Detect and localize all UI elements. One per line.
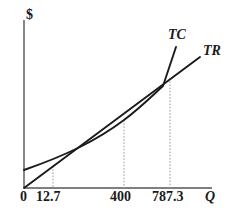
x-tick-label-400: 400: [110, 190, 131, 204]
y-axis-title: $: [26, 8, 33, 22]
x-tick-label-787-3: 787.3: [152, 190, 184, 204]
x-tick-label-12-7: 12.7: [36, 190, 61, 204]
curve-label-tc: TC: [168, 28, 186, 42]
tr-curve: [24, 57, 200, 188]
plot-area: [0, 0, 232, 220]
x-tick-label-0: 0: [20, 190, 27, 204]
chart-figure: $ Q 0 12.7 400 787.3 TC TR: [0, 0, 232, 220]
curve-label-tr: TR: [203, 44, 221, 58]
tc-curve: [24, 47, 176, 170]
x-axis-title: Q: [205, 190, 215, 204]
